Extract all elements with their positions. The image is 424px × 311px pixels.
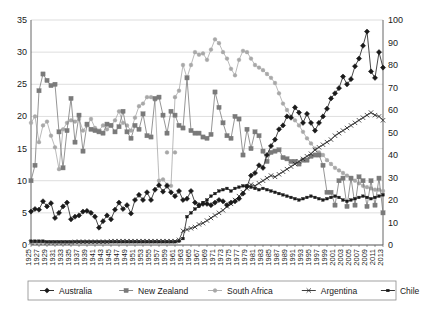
marker-square	[289, 159, 293, 163]
marker-square	[261, 149, 265, 153]
marker-circle	[161, 178, 165, 182]
marker-square	[353, 203, 357, 207]
marker-circle	[281, 102, 285, 106]
marker-x	[329, 137, 333, 141]
line-chart: 0510152025303501020304050607080901001925…	[0, 0, 424, 311]
marker-diamond	[364, 29, 369, 34]
marker-square	[124, 288, 128, 292]
marker-small-square	[250, 186, 253, 189]
y-tick-label-right: 10	[388, 218, 398, 228]
marker-diamond	[268, 143, 273, 148]
marker-x	[277, 172, 281, 176]
marker-circle	[229, 67, 233, 71]
marker-square	[325, 190, 329, 194]
marker-small-square	[194, 208, 197, 211]
marker-small-square	[354, 197, 357, 200]
marker-circle	[245, 50, 249, 54]
marker-square	[157, 95, 161, 99]
marker-square	[173, 113, 177, 117]
marker-circle	[209, 48, 213, 52]
marker-small-square	[282, 194, 285, 197]
marker-square	[85, 122, 89, 126]
marker-square	[93, 128, 97, 132]
marker-diamond	[148, 197, 153, 202]
marker-x	[281, 170, 285, 174]
marker-small-square	[242, 185, 245, 188]
marker-small-square	[222, 188, 225, 191]
y-tick-label-right: 40	[388, 150, 398, 160]
marker-small-square	[234, 187, 237, 190]
marker-diamond	[272, 137, 277, 142]
marker-circle	[273, 81, 277, 85]
y-tick-label-right: 20	[388, 195, 398, 205]
marker-diamond	[320, 114, 325, 119]
marker-square	[225, 134, 229, 138]
marker-circle	[341, 171, 345, 175]
marker-square	[201, 135, 205, 139]
marker-small-square	[278, 192, 281, 195]
marker-circle	[321, 153, 325, 157]
marker-circle	[181, 63, 185, 67]
marker-small-square	[382, 194, 385, 197]
marker-diamond	[244, 184, 249, 189]
marker-x	[337, 131, 341, 135]
marker-circle	[33, 115, 37, 119]
marker-diamond	[324, 106, 329, 111]
marker-circle	[173, 151, 177, 155]
legend-label: Chile	[400, 286, 420, 296]
marker-circle	[337, 169, 341, 173]
marker-circle	[225, 57, 229, 61]
marker-square	[113, 130, 117, 134]
marker-diamond	[100, 219, 105, 224]
marker-square	[269, 150, 273, 154]
legend-label: New Zealand	[138, 286, 188, 296]
marker-square	[233, 114, 237, 118]
marker-circle	[253, 63, 257, 67]
marker-square	[57, 130, 61, 134]
marker-square	[257, 134, 261, 138]
marker-circle	[305, 136, 309, 140]
marker-square	[209, 132, 213, 136]
marker-x	[285, 167, 289, 171]
marker-diamond	[316, 120, 321, 125]
marker-diamond	[368, 69, 373, 74]
y-tick-label-right: 90	[388, 38, 398, 48]
marker-square	[193, 131, 197, 135]
marker-square	[89, 127, 93, 131]
chart-container: 0510152025303501020304050607080901001925…	[0, 0, 424, 311]
marker-diamond	[360, 43, 365, 48]
marker-small-square	[310, 195, 313, 198]
marker-diamond	[372, 75, 377, 80]
marker-diamond	[304, 111, 309, 116]
marker-x	[257, 181, 261, 185]
marker-small-square	[374, 196, 377, 199]
marker-square	[81, 149, 85, 153]
marker-square	[197, 131, 201, 135]
marker-x	[213, 213, 217, 217]
marker-square	[117, 125, 121, 129]
series-line	[31, 39, 383, 191]
marker-small-square	[262, 187, 265, 190]
marker-diamond	[36, 207, 41, 212]
marker-square	[37, 89, 41, 93]
x-tick-label: 2013	[376, 249, 385, 266]
marker-circle	[261, 68, 265, 72]
marker-small-square	[370, 197, 373, 200]
marker-circle	[145, 95, 149, 99]
marker-small-square	[214, 192, 217, 195]
marker-square	[141, 112, 145, 116]
marker-diamond	[300, 120, 305, 125]
marker-square	[65, 128, 69, 132]
marker-small-square	[266, 188, 269, 191]
marker-small-square	[274, 191, 277, 194]
marker-circle	[157, 179, 161, 183]
marker-circle	[329, 162, 333, 166]
y-tick-label-left: 35	[17, 15, 27, 25]
marker-circle	[165, 151, 169, 155]
marker-x	[221, 208, 225, 212]
marker-square	[333, 203, 337, 207]
marker-circle	[237, 58, 241, 62]
marker-square	[217, 105, 221, 109]
marker-square	[29, 179, 33, 183]
marker-square	[285, 157, 289, 161]
